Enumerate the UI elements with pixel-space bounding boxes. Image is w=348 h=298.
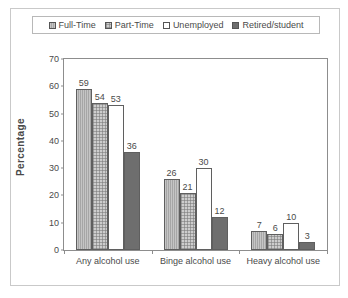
bar-value-label: 36 xyxy=(127,142,137,151)
y-axis-tick-60: 60 xyxy=(49,82,59,91)
legend-swatch-icon-full-time xyxy=(49,22,56,29)
x-axis-label-1: Any alcohol use xyxy=(76,257,140,266)
y-axis-label: Percentage xyxy=(15,118,26,176)
bar-retired-student-1: 36 xyxy=(124,152,140,250)
bar-value-label: 54 xyxy=(95,93,105,102)
bar-value-label: 10 xyxy=(286,213,296,222)
legend-item-retired-student: Retired/student xyxy=(232,21,303,30)
legend-label-part-time: Part-Time xyxy=(115,21,154,30)
x-axis-label-3: Heavy alcohol use xyxy=(246,257,320,266)
bar-value-label: 6 xyxy=(273,224,278,233)
bar-full-time-3: 7 xyxy=(251,231,267,250)
legend-swatch-icon-retired-student xyxy=(232,22,239,29)
legend-item-full-time: Full-Time xyxy=(49,21,96,30)
y-axis-tickmark-50 xyxy=(61,113,64,114)
bar-full-time-1: 59 xyxy=(76,89,92,250)
legend-label-retired-student: Retired/student xyxy=(242,21,303,30)
bar-group-2: 26213012 xyxy=(164,59,228,250)
bar-value-label: 12 xyxy=(214,207,224,216)
legend-item-part-time: Part-Time xyxy=(105,21,154,30)
bar-value-label: 53 xyxy=(111,95,121,104)
bar-unemployed-1: 53 xyxy=(108,105,124,250)
legend-label-unemployed: Unemployed xyxy=(173,21,224,30)
bar-part-time-2: 21 xyxy=(180,193,196,250)
legend-label-full-time: Full-Time xyxy=(59,21,96,30)
y-axis-tick-30: 30 xyxy=(49,164,59,173)
bar-value-label: 59 xyxy=(79,79,89,88)
y-axis-tickmark-70 xyxy=(61,59,64,60)
plot-inner: 01020304050607059545336Any alcohol use26… xyxy=(64,59,327,250)
y-axis-tick-50: 50 xyxy=(49,109,59,118)
bar-value-label: 7 xyxy=(257,221,262,230)
bar-part-time-3: 6 xyxy=(267,234,283,250)
x-axis-label-2: Binge alcohol use xyxy=(160,257,231,266)
bar-group-1: 59545336 xyxy=(76,59,140,250)
bar-value-label: 30 xyxy=(198,158,208,167)
y-axis-tick-20: 20 xyxy=(49,191,59,200)
bar-retired-student-2: 12 xyxy=(212,217,228,250)
y-axis-tickmark-10 xyxy=(61,222,64,223)
y-axis-tickmark-20 xyxy=(61,195,64,196)
y-axis-tick-40: 40 xyxy=(49,136,59,145)
y-axis-tickmark-40 xyxy=(61,140,64,141)
legend-swatch-icon-unemployed xyxy=(163,22,170,29)
legend-item-unemployed: Unemployed xyxy=(163,21,224,30)
y-axis-tick-10: 10 xyxy=(49,218,59,227)
bar-part-time-1: 54 xyxy=(92,103,108,250)
legend-swatch-icon-part-time xyxy=(105,22,112,29)
chart-figure: Full-Time Part-Time Unemployed Retired/s… xyxy=(10,8,340,286)
y-axis-tick-70: 70 xyxy=(49,55,59,64)
x-axis-tickmark-3 xyxy=(327,250,328,254)
bar-unemployed-2: 30 xyxy=(196,168,212,250)
bar-full-time-2: 26 xyxy=(164,179,180,250)
y-axis-tickmark-30 xyxy=(61,168,64,169)
bar-group-3: 76103 xyxy=(251,59,315,250)
y-axis-tick-0: 0 xyxy=(54,246,59,255)
bar-value-label: 3 xyxy=(305,232,310,241)
x-axis-tickmark-1 xyxy=(152,250,153,254)
plot-area: 01020304050607059545336Any alcohol use26… xyxy=(63,58,328,251)
x-axis-tickmark-2 xyxy=(239,250,240,254)
chart-legend: Full-Time Part-Time Unemployed Retired/s… xyxy=(32,16,320,34)
bar-value-label: 26 xyxy=(166,169,176,178)
bar-retired-student-3: 3 xyxy=(299,242,315,250)
bar-value-label: 21 xyxy=(182,183,192,192)
bar-unemployed-3: 10 xyxy=(283,223,299,250)
y-axis-tickmark-60 xyxy=(61,86,64,87)
x-axis-tickmark-0 xyxy=(64,250,65,254)
